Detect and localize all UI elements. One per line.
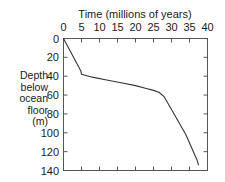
axis-frame: [64, 39, 208, 171]
axis-ticks: [64, 39, 208, 171]
data-series: [64, 39, 199, 165]
series-line-0: [64, 39, 199, 165]
chart-figure: Time (millions of years) 051015202530354…: [0, 0, 225, 182]
plot-frame: [64, 39, 208, 171]
plot-area: [0, 0, 225, 182]
